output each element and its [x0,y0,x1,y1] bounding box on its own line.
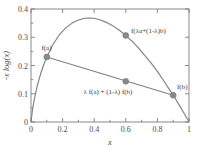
plot-frame [31,9,189,122]
marker-chord-midpoint [123,78,129,84]
y-tick-label-0-1: 0.1 [18,90,28,99]
x-axis-label: x [107,137,112,147]
y-tick-label-0-3: 0.3 [18,33,28,42]
x-tick-label-0-4: 0.4 [89,125,99,134]
y-axis-label: -x log(x) [1,51,11,80]
marker-f-b [170,92,176,98]
y-tick-label-0: 0 [24,118,28,127]
annotation-f-b: f(b) [177,83,188,91]
annotation-f-convex-combination: f(λa+(1-λ)b) [131,27,166,35]
figure-chart-concave-function: 0 0.2 0.4 0.6 0.8 1 0 0.1 0.2 0.3 0.4 x … [0,0,199,148]
y-tick-label-0-2: 0.2 [18,62,28,71]
annotation-f-a: f(a) [41,44,52,52]
x-tick-label-0-8: 0.8 [152,125,162,134]
marker-f-convex-combination [123,33,129,39]
y-tick-label-0-4: 0.4 [18,5,28,14]
x-tick-label-0: 0 [29,125,33,134]
annotation-chord-value: λ f(a) + (1-λ) f(b) [84,88,133,96]
x-tick-label-1: 1 [187,125,191,134]
chart-svg: 0 0.2 0.4 0.6 0.8 1 0 0.1 0.2 0.3 0.4 x … [0,0,199,148]
marker-f-a [44,54,50,60]
x-tick-label-0-6: 0.6 [121,125,131,134]
x-tick-label-0-2: 0.2 [58,125,68,134]
